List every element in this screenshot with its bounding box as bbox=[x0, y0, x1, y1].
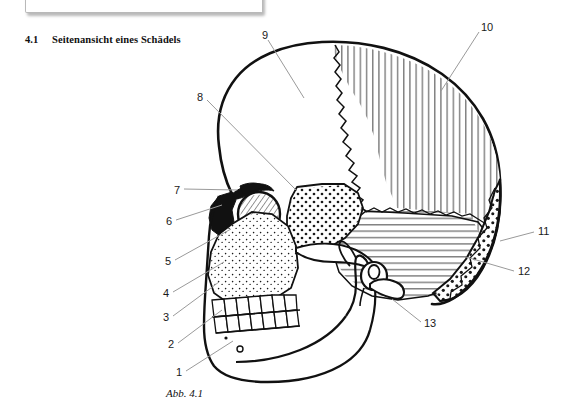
mental-foramen bbox=[237, 346, 243, 352]
callout-label-9: 9 bbox=[262, 30, 268, 41]
callout-label-11: 11 bbox=[538, 226, 549, 237]
leader-line-13 bbox=[392, 299, 421, 322]
callout-label-6: 6 bbox=[166, 216, 172, 227]
leader-line-11 bbox=[500, 232, 534, 241]
callout-label-5: 5 bbox=[165, 256, 171, 267]
page-root: 4.1Seitenansicht eines Schädels bbox=[0, 0, 577, 414]
leader-line-8 bbox=[207, 100, 297, 191]
callout-label-3: 3 bbox=[163, 312, 169, 323]
callout-label-10: 10 bbox=[481, 22, 493, 33]
callout-label-4: 4 bbox=[163, 288, 169, 299]
leader-line-1 bbox=[186, 341, 233, 371]
callout-label-1: 1 bbox=[176, 367, 182, 378]
figure-caption: Abb. 4.1 bbox=[166, 387, 203, 399]
leader-line-10 bbox=[441, 32, 479, 91]
leader-line-3 bbox=[173, 282, 219, 316]
skull-lateral-view-figure bbox=[0, 0, 577, 414]
callout-label-12: 12 bbox=[518, 266, 530, 277]
mandible-dot bbox=[224, 336, 227, 339]
callout-label-8: 8 bbox=[197, 92, 203, 103]
callout-label-13: 13 bbox=[424, 318, 436, 329]
skull-drawing bbox=[173, 32, 534, 382]
callout-label-2: 2 bbox=[168, 339, 174, 350]
callout-label-7: 7 bbox=[174, 185, 180, 196]
